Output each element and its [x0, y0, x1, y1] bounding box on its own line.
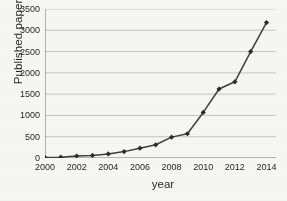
y-tick-label: 3500	[0, 4, 43, 14]
y-tick-label: 2000	[0, 68, 43, 78]
x-tick-label: 2010	[193, 162, 213, 172]
y-tick-label: 3000	[0, 25, 43, 35]
data-point-marker	[90, 153, 95, 158]
x-tick-label: 2014	[256, 162, 276, 172]
axis-ticks	[45, 9, 267, 158]
x-axis-title: year	[46, 178, 280, 190]
data-point-marker	[45, 155, 48, 158]
data-point-marker	[169, 135, 174, 140]
data-point-marker	[122, 149, 127, 154]
data-point-marker	[106, 151, 111, 156]
data-point-marker	[153, 142, 158, 147]
axis-lines	[45, 9, 276, 158]
x-tick-label: 2006	[130, 162, 150, 172]
data-point-marker	[232, 79, 237, 84]
y-tick-label: 2500	[0, 47, 43, 57]
chart-figure: Published papers 05001000150020002500300…	[0, 0, 287, 201]
x-tick-label: 2000	[35, 162, 55, 172]
x-tick-label: 2004	[98, 162, 118, 172]
gridlines	[45, 9, 276, 137]
data-point-marker	[58, 155, 63, 158]
data-point-marker	[137, 146, 142, 151]
y-tick-label: 500	[0, 132, 43, 142]
x-tick-label: 2012	[225, 162, 245, 172]
series-line	[45, 23, 267, 158]
line-chart-svg	[45, 9, 276, 158]
series-markers	[45, 20, 269, 158]
x-tick-label: 2002	[67, 162, 87, 172]
data-point-marker	[74, 153, 79, 158]
plot-area	[45, 9, 276, 158]
y-tick-label: 1500	[0, 89, 43, 99]
x-tick-label: 2008	[162, 162, 182, 172]
y-tick-label: 1000	[0, 110, 43, 120]
